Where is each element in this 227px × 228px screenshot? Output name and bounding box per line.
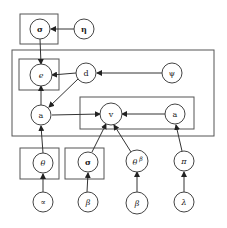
node-label: a: [173, 110, 178, 119]
node-theta-beta: θ β: [126, 150, 148, 172]
node-label: β: [134, 199, 140, 208]
node-label: λ: [180, 198, 186, 207]
edge-a-v: [52, 114, 100, 115]
node-pi: π: [174, 151, 194, 171]
node-beta-2: β: [126, 192, 148, 214]
node-label: v: [108, 110, 114, 119]
node-label-superscript: β: [138, 155, 143, 163]
node-v: v: [100, 103, 122, 125]
node-sigma-bottom: σ: [78, 152, 98, 172]
node-psi: ψ: [162, 63, 182, 83]
node-label: e: [39, 71, 44, 80]
node-label: θ: [41, 159, 46, 168]
graphical-model-diagram: σ η e d ψ a v a θ σ θ β π: [0, 0, 227, 228]
node-label: ∝: [40, 198, 45, 207]
edge-theta-a: [41, 126, 43, 153]
node-beta-1: β: [78, 192, 98, 212]
node-label: σ: [37, 24, 43, 34]
edge-d-e: [52, 73, 76, 75]
node-a-right: a: [165, 104, 185, 124]
node-sigma-top: σ: [30, 19, 50, 39]
node-theta: θ: [33, 153, 53, 173]
node-label: a: [39, 111, 44, 120]
node-d: d: [76, 63, 96, 83]
node-label: π: [180, 157, 187, 166]
edge-d-a: [49, 79, 78, 107]
node-label: θ: [133, 158, 138, 167]
node-alpha: ∝: [33, 192, 53, 212]
node-label: η: [81, 24, 87, 34]
node-label: d: [83, 69, 88, 78]
node-lambda: λ: [174, 192, 194, 212]
edge-beta-sigma: [87, 173, 88, 192]
node-e: e: [30, 64, 52, 86]
edge-sigma-e: [40, 39, 41, 64]
node-label: β: [85, 198, 91, 207]
node-label: σ: [85, 157, 91, 167]
node-label: ψ: [169, 69, 175, 78]
node-a-left: a: [31, 105, 51, 125]
node-eta: η: [74, 19, 94, 39]
